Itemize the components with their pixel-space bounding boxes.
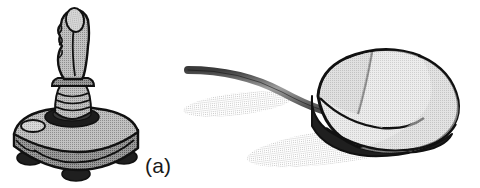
joystick-base-button — [21, 120, 45, 132]
joystick-collar-group — [45, 78, 99, 127]
mouse-shell-group — [318, 49, 459, 152]
mouse-illustration — [170, 0, 480, 188]
panel-caption-a: (a) — [145, 155, 171, 176]
joystick-handle-group — [58, 7, 89, 79]
figure-input-devices: (a) — [0, 0, 480, 188]
panel-mouse: (b) — [170, 0, 480, 188]
